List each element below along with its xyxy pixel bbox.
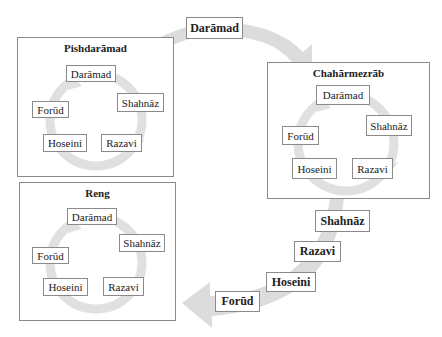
node-hoseini: Hoseini (292, 158, 337, 179)
node-hoseini: Hoseini (43, 134, 87, 152)
node-forud: Forūd (32, 247, 69, 264)
node-daramad: Darāmad (316, 85, 370, 105)
node-daramad: Darāmad (67, 208, 117, 225)
group-chaharmezrab: Chahārmezrāb Darāmad Shahnāz Razavi Hose… (267, 62, 430, 199)
node-razavi: Razavi (101, 134, 142, 152)
node-hoseini: Hoseini (43, 278, 88, 296)
group-reng: Reng Darāmad Shahnāz Razavi Hoseini Forū… (19, 182, 176, 321)
node-razavi: Razavi (352, 158, 393, 179)
outer-label-razavi: Razavi (294, 241, 341, 262)
node-forud: Forūd (282, 126, 319, 145)
outer-label-forud: Forūd (215, 291, 260, 312)
node-shahnaz: Shahnāz (117, 93, 164, 112)
group-pishdaramad: Pishdarāmad Darāmad Shahnāz Razavi Hosei… (17, 37, 174, 177)
node-shahnaz: Shahnāz (366, 115, 412, 136)
outer-label-daramad: Darāmad (186, 17, 243, 39)
node-razavi: Razavi (103, 277, 144, 296)
node-daramad: Darāmad (66, 65, 116, 82)
outer-label-shahnaz: Shahnāz (315, 210, 370, 232)
outer-label-hoseini: Hoseini (266, 272, 316, 292)
node-forud: Forūd (32, 101, 69, 118)
node-shahnaz: Shahnāz (119, 234, 165, 252)
